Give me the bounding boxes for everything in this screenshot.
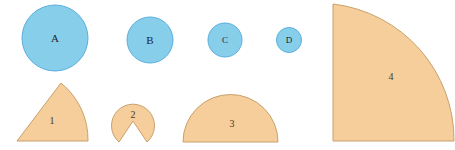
circle-b-label: B [146,34,153,46]
shapes-figure: A B C D 1 2 3 4 [0,0,455,150]
circle-group-b: B [127,17,173,63]
sector-group-3: 3 [183,95,278,142]
circle-d-label: D [286,35,293,45]
sector-1-narrow-wedge [17,83,88,141]
sector-4-label: 4 [389,71,394,82]
circle-c-label: C [222,35,228,45]
sector-1-label: 1 [50,115,55,126]
sector-group-1: 1 [17,83,88,141]
sector-group-4: 4 [333,4,454,141]
sector-4-quarter-circle [333,4,454,141]
circle-group-c: C [208,23,242,57]
sector-2-label: 2 [131,109,136,120]
circle-a-label: A [51,32,59,44]
circle-group-d: D [277,28,302,53]
circle-group-a: A [22,5,88,71]
sector-group-2: 2 [111,104,154,142]
figure-canvas: A B C D 1 2 3 4 [0,0,455,150]
sector-3-label: 3 [230,118,235,129]
